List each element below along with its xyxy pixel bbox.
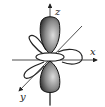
orbital-diagram: z x y bbox=[0, 0, 105, 107]
x-axis-label: x bbox=[90, 46, 96, 57]
y-axis-label: y bbox=[19, 91, 26, 102]
torus-ring bbox=[36, 53, 64, 61]
upper-lobe bbox=[40, 17, 60, 54]
z-axis-label: z bbox=[54, 6, 61, 17]
